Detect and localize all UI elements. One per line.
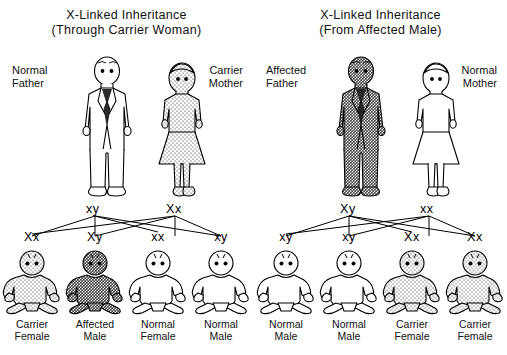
child-caption-line2: Female (0, 330, 64, 342)
child-caption: Normal Male (189, 318, 253, 342)
child-caption-line1: Normal (317, 318, 381, 330)
child-caption-line2: Male (254, 330, 318, 342)
father-label: Affected Father (266, 64, 306, 89)
panel-through-carrier-woman: X-Linked Inheritance (Through Carrier Wo… (0, 0, 253, 355)
mother-label-line2: Mother (462, 77, 497, 90)
father-label-line2: Father (266, 77, 306, 90)
child-caption-line2: Male (189, 330, 253, 342)
child-genotype: xy (256, 231, 316, 244)
child-caption-line1: Normal (189, 318, 253, 330)
child-figure (2, 249, 62, 315)
child-caption-line2: Male (317, 330, 381, 342)
child-figure (445, 249, 505, 315)
child-genotype: xx (128, 231, 188, 244)
child-caption: Carrier Female (0, 318, 64, 342)
child-caption-line1: Carrier (380, 318, 444, 330)
panel-title-line1: X-Linked Inheritance (254, 8, 507, 23)
child-caption: Carrier Female (380, 318, 444, 342)
father-figure (326, 57, 396, 199)
child-caption-line2: Male (63, 330, 127, 342)
child-caption-line2: Female (380, 330, 444, 342)
child-figure (65, 249, 125, 315)
mother-label-line2: Mother (209, 77, 243, 90)
child-caption: Normal Female (126, 318, 190, 342)
panel-title-line1: X-Linked Inheritance (0, 8, 253, 23)
child-caption: Normal Male (317, 318, 381, 342)
mother-label-line1: Normal (462, 64, 497, 77)
child-genotype: xy (191, 231, 251, 244)
child-caption-line1: Normal (126, 318, 190, 330)
child-figure (319, 249, 379, 315)
child-caption-line2: Female (126, 330, 190, 342)
mother-label: Normal Mother (462, 64, 497, 89)
child-figure (382, 249, 442, 315)
mother-label-line1: Carrier (209, 64, 243, 77)
child-figure (256, 249, 316, 315)
child-genotype: Xx (382, 231, 442, 244)
child-caption-line1: Carrier (443, 318, 507, 330)
child-genotype: Xy (65, 231, 125, 244)
father-label-line1: Affected (266, 64, 306, 77)
father-label-line1: Normal (12, 64, 47, 77)
child-caption: Normal Male (254, 318, 318, 342)
panel-title-line2: (Through Carrier Woman) (0, 23, 253, 38)
panel-from-affected-male: X-Linked Inheritance (From Affected Male… (254, 0, 507, 355)
father-label: Normal Father (12, 64, 47, 89)
child-caption: Carrier Female (443, 318, 507, 342)
mother-figure (152, 62, 212, 199)
father-figure (72, 57, 142, 199)
child-genotype: xy (319, 231, 379, 244)
child-caption-line1: Normal (254, 318, 318, 330)
child-caption: Affected Male (63, 318, 127, 342)
child-genotype: Xx (2, 231, 62, 244)
mother-label: Carrier Mother (209, 64, 243, 89)
child-figure (128, 249, 188, 315)
child-caption-line1: Affected (63, 318, 127, 330)
child-caption-line2: Female (443, 330, 507, 342)
child-figure (191, 249, 251, 315)
child-caption-line1: Carrier (0, 318, 64, 330)
mother-figure (406, 62, 466, 199)
child-genotype: Xx (445, 231, 505, 244)
panel-title-line2: (From Affected Male) (254, 23, 507, 38)
father-label-line2: Father (12, 77, 47, 90)
